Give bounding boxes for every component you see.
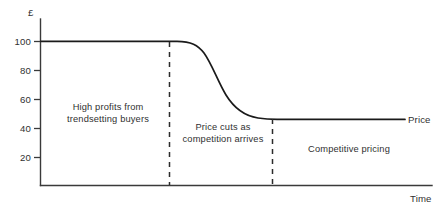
y-axis-tick-labels: 100 80 60 40 20 <box>15 36 31 163</box>
annotation-phase-two: Price cuts as competition arrives <box>183 122 264 144</box>
chart-canvas: 100 80 60 40 20 £ Time Price High profit… <box>0 0 446 209</box>
tick-label-80: 80 <box>20 65 31 76</box>
annotation-phase-three: Competitive pricing <box>308 144 390 154</box>
tick-label-100: 100 <box>15 36 31 47</box>
x-axis-title: Time <box>410 193 432 204</box>
annotation-phase-two-line2: competition arrives <box>183 134 264 144</box>
tick-label-20: 20 <box>20 152 31 163</box>
phase-dividers <box>170 42 273 185</box>
price-series-label: Price <box>408 114 431 125</box>
tick-label-60: 60 <box>20 94 31 105</box>
annotation-phase-one-line2: trendsetting buyers <box>67 114 149 124</box>
annotation-phase-one-line1: High profits from <box>73 102 144 112</box>
annotation-phase-one: High profits from trendsetting buyers <box>67 102 149 124</box>
annotation-phase-three-line1: Competitive pricing <box>308 144 390 154</box>
y-axis-ticks <box>34 42 41 158</box>
annotation-phase-two-line1: Price cuts as <box>195 122 250 132</box>
price-skimming-chart: 100 80 60 40 20 £ Time Price High profit… <box>0 0 446 209</box>
y-axis-title: £ <box>28 7 34 18</box>
tick-label-40: 40 <box>20 123 31 134</box>
